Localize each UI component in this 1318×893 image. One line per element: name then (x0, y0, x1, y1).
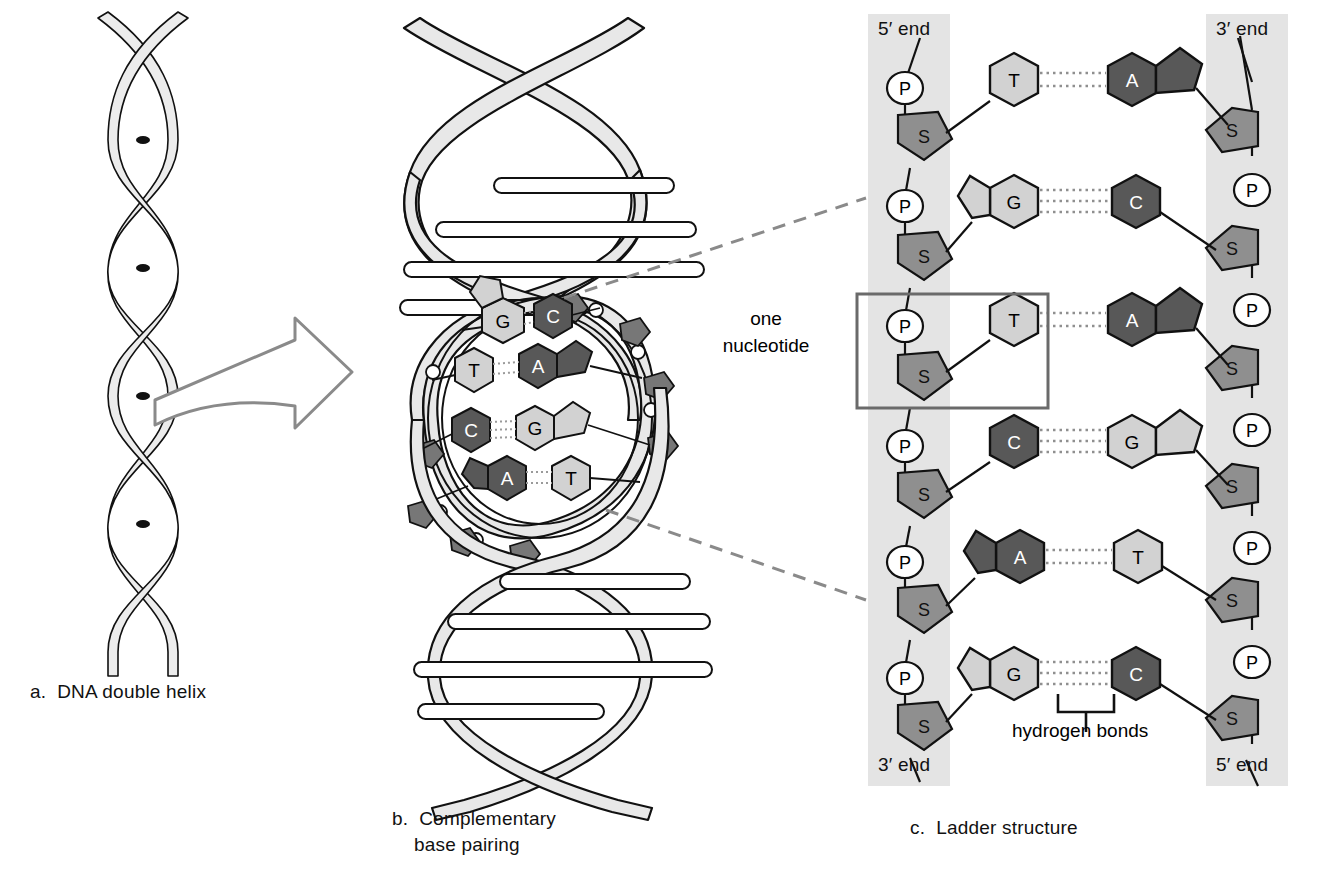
svg-text:P: P (1246, 653, 1258, 673)
phosphate-unit: P (887, 430, 923, 462)
svg-text:S: S (1226, 477, 1238, 497)
svg-text:A: A (501, 468, 514, 489)
hydrogen-bonds-label: hydrogen bonds (1012, 720, 1148, 742)
base-label: T (1132, 547, 1144, 568)
svg-text:S: S (1226, 239, 1238, 259)
svg-text:G: G (496, 311, 511, 332)
svg-text:A: A (532, 356, 545, 377)
svg-text:S: S (1226, 591, 1238, 611)
ladder-row-3: T A (946, 288, 1228, 372)
phosphate-unit: P (1234, 174, 1270, 206)
base-label: T (1008, 70, 1020, 91)
base-label: C (1007, 432, 1021, 453)
svg-text:P: P (1246, 539, 1258, 559)
svg-text:C: C (464, 420, 478, 441)
base-label: G (1007, 192, 1022, 213)
base-label: G (1007, 664, 1022, 685)
phosphate-unit: P (887, 310, 923, 342)
svg-text:S: S (918, 717, 930, 737)
right-3prime-end-label: 3′ end (1216, 16, 1268, 42)
left-5prime-end-label: 5′ end (878, 16, 930, 42)
svg-text:S: S (918, 127, 930, 147)
svg-text:P: P (899, 669, 911, 689)
hydrogen-bonds (1040, 73, 1106, 86)
leader-line-top (564, 198, 866, 298)
svg-text:S: S (918, 485, 930, 505)
phosphate-unit: P (1234, 294, 1270, 326)
right-5prime-end-label: 5′ end (1216, 752, 1268, 778)
svg-text:P: P (1246, 301, 1258, 321)
one-nucleotide-label: one nucleotide (706, 306, 826, 359)
phosphate-unit: P (887, 190, 923, 222)
bp-b-3: C G (420, 402, 650, 452)
svg-text:T: T (468, 360, 480, 381)
svg-text:G: G (528, 418, 543, 439)
svg-text:P: P (899, 317, 911, 337)
phosphate-unit: P (1234, 646, 1270, 678)
panel-a-caption: a. DNA double helix (30, 679, 206, 705)
figure-canvas: G C T A (0, 0, 1318, 893)
ladder-row-5: A T (946, 530, 1216, 606)
hydrogen-bonds (1040, 662, 1110, 684)
hydrogen-bonds (1040, 190, 1110, 212)
ladder-row-2: G C (946, 175, 1216, 252)
phosphate-unit: P (1234, 414, 1270, 446)
ladder-row-4: C G (946, 410, 1228, 492)
left-3prime-end-label: 3′ end (878, 752, 930, 778)
svg-text:S: S (1226, 709, 1238, 729)
panel-c-caption: c. Ladder structure (910, 815, 1078, 841)
hydrogen-bonds (1040, 430, 1106, 452)
dna-figure-svg: G C T A (0, 0, 1318, 893)
svg-text:P: P (1246, 421, 1258, 441)
phosphate-unit: P (887, 546, 923, 578)
svg-text:P: P (899, 553, 911, 573)
panel-a-double-helix (98, 12, 188, 676)
hydrogen-bonds (1046, 550, 1112, 563)
base-label: A (1126, 310, 1139, 331)
svg-text:S: S (918, 367, 930, 387)
phosphate-unit: P (887, 72, 923, 104)
phosphate-unit: P (887, 662, 923, 694)
svg-text:S: S (918, 600, 930, 620)
panel-c-ladder: P S P S P S P S P S P S S P S P S (857, 14, 1288, 786)
base-label: C (1129, 664, 1143, 685)
base-label: C (1129, 192, 1143, 213)
svg-text:P: P (899, 437, 911, 457)
svg-text:P: P (899, 197, 911, 217)
svg-text:T: T (565, 468, 577, 489)
base-label: A (1014, 547, 1027, 568)
transition-arrow (155, 318, 352, 428)
base-label: T (1008, 310, 1020, 331)
hydrogen-bonds (1040, 313, 1106, 326)
panel-b-caption: b. Complementary base pairing (392, 806, 556, 857)
panel-b-helix: G C T A (400, 18, 712, 820)
phosphate-unit: P (1234, 532, 1270, 564)
svg-text:S: S (1226, 359, 1238, 379)
svg-text:C: C (546, 306, 560, 327)
base-label: G (1125, 432, 1140, 453)
base-label: A (1126, 70, 1139, 91)
svg-text:S: S (918, 247, 930, 267)
svg-text:P: P (899, 79, 911, 99)
svg-text:P: P (1246, 181, 1258, 201)
